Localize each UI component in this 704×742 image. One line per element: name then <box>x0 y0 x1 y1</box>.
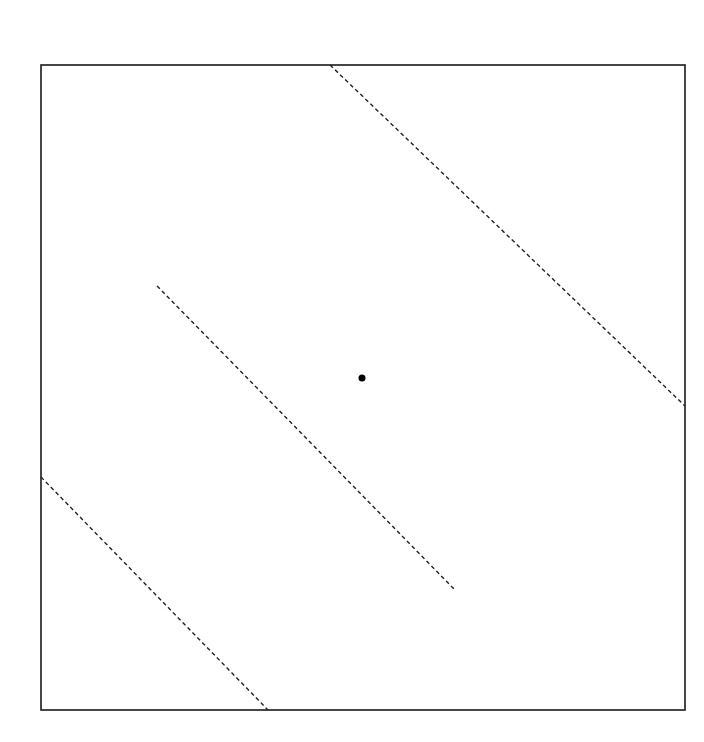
middle-dashed-line <box>157 286 455 590</box>
dashed-lines-group <box>41 65 685 710</box>
upper-dashed-line <box>330 65 685 406</box>
square-frame <box>41 65 685 710</box>
lower-dashed-line <box>41 477 268 710</box>
center-point <box>359 375 366 382</box>
diagram-canvas <box>0 0 704 742</box>
